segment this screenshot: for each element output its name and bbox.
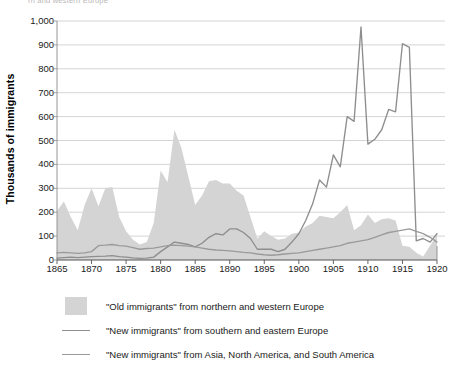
x-axis-tick-label: 1900 (288, 263, 309, 274)
x-axis-tick-label: 1880 (150, 263, 171, 274)
chart-legend: "Old immigrants" from northern and weste… (62, 294, 442, 366)
x-axis-tick-label: 1885 (185, 263, 206, 274)
x-axis-tick-label: 1895 (254, 263, 275, 274)
chart-svg (0, 0, 452, 290)
series-old-immigrants-area (57, 130, 437, 260)
legend-item-new-immigrants-americas-asia[interactable]: "New immigrants" from Asia, North Americ… (62, 342, 442, 366)
x-axis-tick-marks (57, 260, 437, 264)
x-axis-tick-label: 1915 (392, 263, 413, 274)
x-axis-tick-label: 1920 (426, 263, 447, 274)
legend-item-label: "New immigrants" from Asia, North Americ… (106, 349, 374, 360)
x-axis-tick-label: 1875 (116, 263, 137, 274)
plot-area (0, 0, 452, 290)
legend-item-old-immigrants[interactable]: "Old immigrants" from northern and weste… (62, 294, 442, 318)
immigration-chart-figure: rn and western Europe Thousands of immig… (0, 0, 452, 378)
area-swatch-icon (62, 296, 90, 316)
x-axis-tick-label: 1910 (357, 263, 378, 274)
x-axis-tick-label: 1905 (323, 263, 344, 274)
line-swatch-icon (62, 320, 90, 340)
x-axis-tick-label: 1865 (46, 263, 67, 274)
x-axis-tick-label: 1870 (81, 263, 102, 274)
legend-item-new-immigrants-europe[interactable]: "New immigrants" from southern and easte… (62, 318, 442, 342)
line-swatch-icon (62, 344, 90, 364)
legend-item-label: "Old immigrants" from northern and weste… (106, 301, 324, 312)
x-axis-tick-label: 1890 (219, 263, 240, 274)
legend-item-label: "New immigrants" from southern and easte… (106, 325, 328, 336)
